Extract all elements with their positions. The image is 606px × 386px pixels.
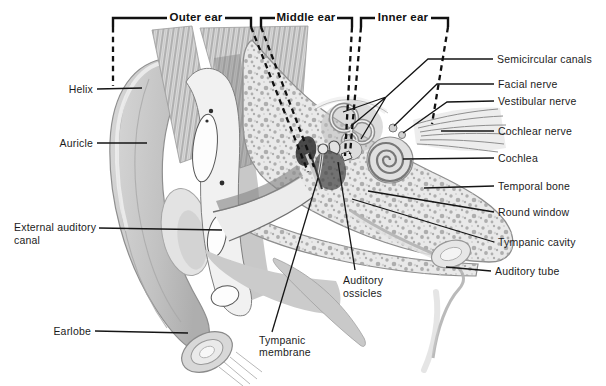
- label-helix: Helix: [20, 83, 93, 95]
- label-round-window: Round window: [498, 206, 569, 218]
- ear-anatomy-figure: Outer ear Middle ear Inner ear Helix Aur…: [0, 0, 606, 386]
- label-earlobe: Earlobe: [20, 325, 91, 337]
- region-title-middle-ear: Middle ear: [277, 11, 336, 23]
- label-tympanic-membrane: Tympanic membrane: [259, 334, 321, 358]
- label-cochlea: Cochlea: [498, 152, 538, 164]
- label-external-auditory-canal: External auditory canal: [14, 221, 98, 247]
- label-auricle: Auricle: [20, 137, 93, 149]
- label-facial-nerve: Facial nerve: [498, 78, 558, 90]
- region-title-inner-ear: Inner ear: [378, 11, 428, 23]
- label-vestibular-nerve: Vestibular nerve: [498, 95, 577, 107]
- label-temporal-bone: Temporal bone: [498, 180, 570, 192]
- cochlea-spiral: [367, 137, 413, 183]
- label-auditory-tube: Auditory tube: [495, 265, 559, 277]
- label-tympanic-cavity: Tympanic cavity: [498, 236, 576, 248]
- leader-cochlea: [403, 158, 494, 159]
- label-cochlear-nerve: Cochlear nerve: [498, 125, 572, 137]
- label-semicircular-canals: Semicircular canals: [497, 53, 592, 65]
- region-title-outer-ear: Outer ear: [170, 11, 223, 23]
- label-auditory-ossicles: Auditory ossicles: [343, 274, 391, 300]
